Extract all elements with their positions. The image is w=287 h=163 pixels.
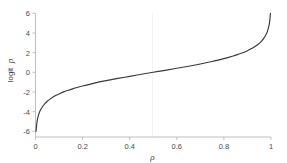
figure-container: 6 4 2 0 -2 -4 -6 0 0.2 0.4 0.6 0.8 1 ρ l… [0,0,287,163]
x-tick-label-0.2: 0.2 [77,142,87,151]
x-tick-label-0.6: 0.6 [172,142,182,151]
y-tick-label-0: 0 [26,68,30,77]
x-axis-title: ρ [149,152,155,162]
y-axis-title-prefix: logit [6,67,15,82]
y-axis-title: logit p [5,58,15,82]
logit-curve-chart: 6 4 2 0 -2 -4 -6 0 0.2 0.4 0.6 0.8 1 ρ l… [0,0,287,163]
y-tick-label-2: 2 [26,49,30,58]
chart-background [0,0,287,163]
y-tick-label-6: 6 [26,9,30,18]
x-tick-label-0.4: 0.4 [124,142,134,151]
y-tick-label-neg4: -4 [23,108,30,117]
x-tick-label-1: 1 [269,142,273,151]
y-tick-label-neg6: -6 [23,127,30,136]
y-axis-title-variable: p [5,58,15,64]
x-tick-label-0.8: 0.8 [219,142,229,151]
y-tick-label-neg2: -2 [23,88,30,97]
y-tick-label-4: 4 [26,29,30,38]
x-tick-label-0: 0 [33,142,37,151]
